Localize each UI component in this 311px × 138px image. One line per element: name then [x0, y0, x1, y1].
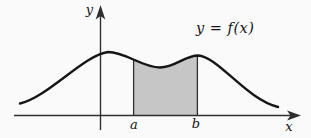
lower-bound-label: a: [130, 117, 138, 132]
upper-bound-label: b: [192, 116, 200, 131]
function-area-figure: y x a b y = f(x): [0, 0, 311, 138]
curve-equation-label: y = f(x): [195, 20, 254, 36]
x-axis-label: x: [285, 119, 293, 134]
figure-svg: y x a b y = f(x): [0, 0, 311, 138]
y-axis-label: y: [85, 2, 94, 17]
